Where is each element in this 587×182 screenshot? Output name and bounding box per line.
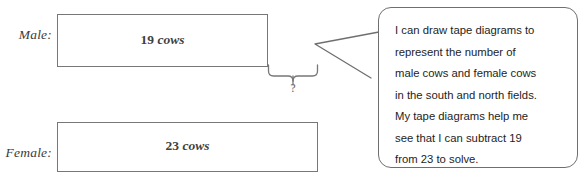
speech-bubble-tail — [313, 28, 385, 80]
male-unit-label: cows — [157, 32, 184, 47]
male-value-number: 19 — [141, 32, 155, 47]
speech-tail-icon — [313, 28, 385, 80]
female-unit-label: cows — [182, 138, 209, 153]
female-tape-bar: 23 cows — [57, 122, 318, 172]
female-row-label: Female: — [0, 145, 52, 161]
unknown-value-label: ? — [266, 82, 320, 94]
bubble-line: from 23 to solve. — [395, 149, 569, 171]
speech-bubble-text: I can draw tape diagrams to represent th… — [395, 20, 569, 171]
speech-bubble: I can draw tape diagrams to represent th… — [378, 7, 578, 168]
bubble-line: see that I can subtract 19 — [395, 128, 569, 150]
bubble-line: My tape diagrams help me — [395, 106, 569, 128]
bubble-line: I can draw tape diagrams to — [395, 20, 569, 42]
worksheet-canvas: Male: 19 cows ? Female: 23 cows I can dr… — [0, 0, 587, 182]
bubble-line: male cows and female cows — [395, 63, 569, 85]
female-value-number: 23 — [166, 138, 180, 153]
bubble-line: in the south and north fields. — [395, 85, 569, 107]
male-row-label: Male: — [4, 27, 52, 43]
bubble-line: represent the number of — [395, 42, 569, 64]
male-tape-bar: 19 cows — [57, 14, 268, 67]
female-tape-value: 23 cows — [58, 138, 317, 154]
male-tape-value: 19 cows — [58, 32, 267, 48]
